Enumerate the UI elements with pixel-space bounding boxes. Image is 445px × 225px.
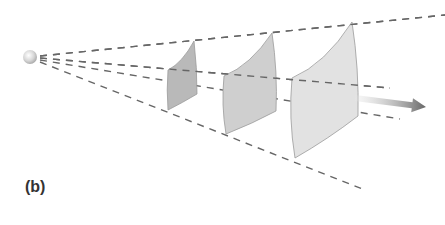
patch-near xyxy=(167,41,197,110)
direction-arrow-icon xyxy=(355,95,426,112)
wavefront-diagram xyxy=(0,0,445,225)
arrow-shape xyxy=(355,95,426,112)
wavefront-patches xyxy=(167,22,358,158)
patch-far xyxy=(291,22,358,158)
point-source xyxy=(23,50,37,64)
patch-middle xyxy=(223,33,276,134)
panel-label: (b) xyxy=(25,178,45,196)
